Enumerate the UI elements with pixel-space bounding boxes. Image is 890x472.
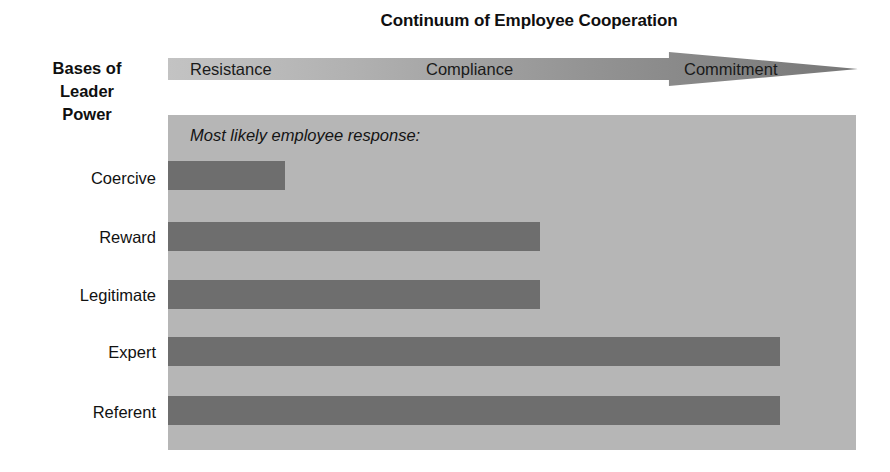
bar-legitimate	[168, 280, 540, 309]
continuum-label-resistance: Resistance	[190, 60, 272, 79]
continuum-label-commitment: Commitment	[684, 60, 778, 79]
continuum-label-compliance: Compliance	[426, 60, 513, 79]
bar-coercive	[168, 161, 285, 190]
y-tick-label-reward: Reward	[22, 228, 168, 247]
y-tick-label-expert: Expert	[22, 343, 168, 362]
y-axis-heading-line-1: Bases of	[14, 57, 160, 80]
continuum-arrow: Resistance Compliance Commitment	[168, 52, 858, 86]
plot-annotation-most-likely-response: Most likely employee response:	[190, 126, 420, 145]
y-tick-label-legitimate: Legitimate	[22, 286, 168, 305]
bar-reward	[168, 222, 540, 251]
y-axis-tick-labels: Coercive Reward Legitimate Expert Refere…	[0, 115, 168, 450]
figure-continuum-of-employee-cooperation: Continuum of Employee Cooperation Bases …	[0, 0, 890, 472]
y-axis-heading-line-2: Leader	[14, 80, 160, 103]
plot-area: Most likely employee response:	[168, 115, 856, 450]
chart-title: Continuum of Employee Cooperation	[0, 11, 890, 31]
y-tick-label-coercive: Coercive	[22, 169, 168, 188]
bar-referent	[168, 396, 780, 425]
bar-expert	[168, 337, 780, 366]
y-tick-label-referent: Referent	[22, 403, 168, 422]
